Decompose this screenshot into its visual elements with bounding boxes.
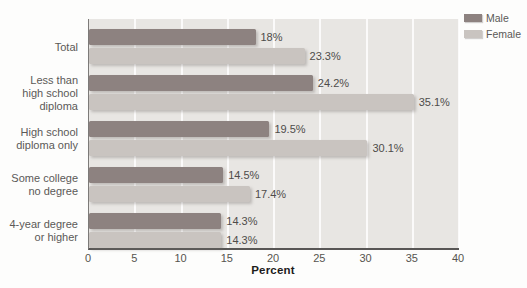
category-label-4-year-degree: 4-year degree or higher	[10, 218, 79, 244]
legend-label-female: Female	[486, 28, 521, 40]
x-tick-label-25: 25	[313, 252, 325, 264]
grid-line-30	[366, 19, 368, 248]
bar-female-high-school	[89, 140, 367, 156]
bar-male-some-college	[89, 167, 223, 183]
grid-line-35	[412, 19, 414, 248]
bar-female-total	[89, 48, 305, 64]
x-tick-label-10: 10	[174, 252, 186, 264]
legend: MaleFemale	[464, 12, 521, 44]
legend-label-male: Male	[486, 12, 509, 24]
bar-value-female-4-year-degree: 14.3%	[226, 234, 257, 246]
bar-value-male-some-college: 14.5%	[228, 169, 259, 181]
category-label-less-than: Less than high school diploma	[22, 73, 78, 112]
legend-item-male: Male	[464, 12, 521, 24]
bar-value-female-less-than: 35.1%	[419, 96, 450, 108]
education-gender-bar-chart: TotalLess than high school diplomaHigh s…	[0, 0, 527, 288]
bar-value-male-high-school: 19.5%	[274, 123, 305, 135]
bar-female-less-than	[89, 94, 414, 110]
legend-swatch-female	[464, 30, 482, 38]
legend-item-female: Female	[464, 28, 521, 40]
bar-male-4-year-degree	[89, 213, 221, 229]
grid-line-40	[458, 19, 460, 248]
x-tick-label-0: 0	[85, 252, 91, 264]
legend-swatch-male	[464, 14, 482, 22]
x-tick-label-30: 30	[359, 252, 371, 264]
category-label-high-school: High school diploma only	[16, 126, 78, 152]
x-axis-title: Percent	[88, 264, 458, 276]
bar-value-female-some-college: 17.4%	[255, 188, 286, 200]
bar-value-male-less-than: 24.2%	[318, 77, 349, 89]
category-label-total: Total	[55, 40, 78, 53]
bar-female-some-college	[89, 186, 250, 202]
bar-female-4-year-degree	[89, 232, 221, 248]
x-tick-label-15: 15	[221, 252, 233, 264]
bar-male-total	[89, 29, 256, 45]
x-tick-label-5: 5	[131, 252, 137, 264]
x-tick-label-20: 20	[267, 252, 279, 264]
category-axis: TotalLess than high school diplomaHigh s…	[0, 19, 83, 248]
bar-value-female-high-school: 30.1%	[372, 142, 403, 154]
bar-value-male-total: 18%	[261, 31, 283, 43]
plot-area: 18%23.3%24.2%35.1%19.5%30.1%14.5%17.4%14…	[88, 19, 459, 250]
bar-value-female-total: 23.3%	[310, 50, 341, 62]
bar-value-male-4-year-degree: 14.3%	[226, 215, 257, 227]
x-tick-label-35: 35	[406, 252, 418, 264]
x-tick-label-40: 40	[452, 252, 464, 264]
bar-male-less-than	[89, 75, 313, 91]
category-label-some-college: Some college no degree	[11, 172, 78, 198]
bar-male-high-school	[89, 121, 269, 137]
